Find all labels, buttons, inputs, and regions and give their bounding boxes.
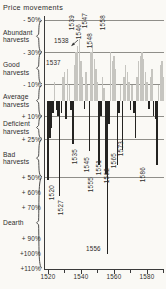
- abundant-year-bar: [131, 85, 132, 101]
- year-annotation: 1537: [46, 59, 61, 66]
- x-axis-minor-tick: [163, 270, 164, 273]
- year-annotation-rotated: 1535: [71, 149, 78, 164]
- abundant-year-bar: [87, 85, 88, 101]
- year-annotation-rotated: 1520: [48, 185, 55, 200]
- year-annotation-rotated: 1558: [99, 15, 106, 30]
- band-brace: [35, 177, 43, 269]
- deficit-year-bar: [59, 101, 61, 196]
- deficit-year-bar: [52, 101, 54, 113]
- abundant-year-bar: [103, 88, 104, 101]
- x-axis-tick-label: 1580: [137, 273, 157, 280]
- x-axis-minor-tick: [97, 270, 98, 273]
- year-annotation-rotated: 1565: [110, 153, 117, 168]
- deficit-year-bar: [135, 101, 137, 138]
- harvest-band-label: Goodharvests: [3, 61, 35, 76]
- year-annotation-rotated: 1562: [103, 168, 110, 183]
- deficit-year-bar: [118, 101, 120, 113]
- year-annotation-rotated: 1555: [87, 177, 94, 192]
- abundant-year-bar: [163, 77, 164, 101]
- gridline: [44, 139, 164, 140]
- abundant-year-bar: [54, 82, 55, 101]
- x-axis-tick-label: 1520: [38, 273, 58, 280]
- deficit-year-bar: [108, 101, 110, 124]
- deficit-year-bar: [156, 101, 158, 165]
- band-brace: [35, 52, 43, 84]
- x-axis-minor-tick: [64, 270, 65, 273]
- abundant-year-bar: [82, 77, 83, 101]
- abundant-year-bar: [115, 69, 116, 101]
- year-annotation-rotated: 1547: [81, 13, 88, 28]
- x-axis-tick-label: 1560: [104, 273, 124, 280]
- abundant-year-bar: [146, 82, 147, 101]
- deficit-year-bar: [72, 101, 74, 144]
- deficit-year-bar: [61, 101, 63, 113]
- deficit-year-bar: [130, 101, 132, 110]
- year-annotation-rotated: 1573: [117, 141, 124, 156]
- year-annotation-rotated: 1539: [68, 15, 75, 30]
- year-annotation-rotated: 1586: [139, 167, 146, 182]
- year-annotation: 1538: [54, 37, 69, 44]
- annotation-arrow-icon: [70, 39, 79, 48]
- x-axis-tick-label: 1540: [71, 273, 91, 280]
- harvest-band-label: Badharvests: [3, 151, 35, 166]
- deficit-year-bar: [148, 101, 150, 109]
- deficit-year-bar: [65, 101, 67, 119]
- gridline: [44, 52, 164, 53]
- year-annotation-rotated: 1527: [57, 200, 64, 215]
- abundant-year-bar: [128, 82, 129, 101]
- band-brace: [35, 85, 43, 116]
- chart-title: Price movements: [3, 3, 63, 12]
- harvest-band-label: Abundantharvests: [3, 29, 35, 44]
- abundant-year-bar: [64, 72, 65, 101]
- abundant-year-bar: [151, 69, 152, 101]
- year-annotation-rotated: 1551: [95, 160, 102, 175]
- deficit-year-bar: [100, 101, 102, 116]
- harvest-band-label: Dearth: [3, 219, 35, 227]
- band-brace: [35, 139, 43, 177]
- y-axis-line: [44, 16, 45, 270]
- band-brace: [35, 116, 43, 139]
- abundant-year-bar: [97, 82, 98, 101]
- year-annotation-rotated: 1545: [83, 157, 90, 172]
- year-annotation-rotated: 1548: [86, 33, 93, 48]
- deficit-year-bar: [84, 101, 86, 109]
- abundant-year-bar: [120, 85, 121, 101]
- band-brace: [35, 20, 43, 52]
- deficit-year-bar: [89, 101, 91, 151]
- gridline: [44, 116, 164, 117]
- harvest-price-chart: Price movements 1520154015601580- 50%- 3…: [0, 0, 166, 289]
- year-annotation: 1556: [86, 245, 101, 252]
- harvest-band-label: Averageharvests: [3, 93, 35, 108]
- harvest-band-label: Deficientharvests: [3, 120, 35, 135]
- abundant-year-bar: [69, 85, 70, 101]
- x-axis-minor-tick: [130, 270, 131, 273]
